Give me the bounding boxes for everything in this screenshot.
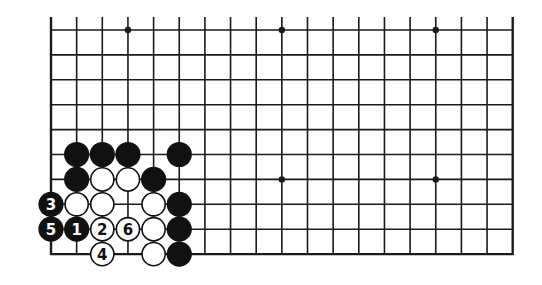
black-stone bbox=[90, 142, 115, 167]
move-number-label: 2 bbox=[97, 221, 107, 239]
black-stone-circle bbox=[141, 167, 166, 192]
white-stone-move-4: 4 bbox=[91, 243, 114, 266]
board-grid bbox=[51, 17, 513, 255]
white-stone bbox=[142, 218, 165, 241]
black-stone bbox=[115, 142, 140, 167]
black-stone-move-5: 5 bbox=[38, 217, 63, 242]
white-stone-move-6: 6 bbox=[116, 218, 139, 241]
white-stone-circle bbox=[91, 193, 114, 216]
white-stone bbox=[142, 193, 165, 216]
white-stone bbox=[65, 193, 88, 216]
black-stone bbox=[167, 242, 192, 267]
black-stone bbox=[167, 217, 192, 242]
black-stone-move-1: 1 bbox=[64, 217, 89, 242]
white-stone-circle bbox=[116, 168, 139, 191]
white-stone bbox=[91, 168, 114, 191]
white-stone bbox=[142, 243, 165, 266]
star-point-icon bbox=[433, 176, 439, 182]
star-point-icon bbox=[433, 27, 439, 33]
black-stone-circle bbox=[64, 142, 89, 167]
move-number-label: 3 bbox=[46, 196, 56, 214]
move-number-label: 1 bbox=[71, 221, 81, 239]
black-stone bbox=[64, 142, 89, 167]
white-stone-circle bbox=[142, 218, 165, 241]
move-number-label: 5 bbox=[46, 221, 56, 239]
white-stone-circle bbox=[142, 193, 165, 216]
go-board: 351264 bbox=[0, 0, 542, 285]
white-stone bbox=[116, 168, 139, 191]
black-stone-circle bbox=[115, 142, 140, 167]
black-stone-circle bbox=[90, 142, 115, 167]
white-stone-move-2: 2 bbox=[91, 218, 114, 241]
white-stone bbox=[91, 193, 114, 216]
black-stone-circle bbox=[167, 217, 192, 242]
white-stone-circle bbox=[142, 243, 165, 266]
black-stone-circle bbox=[167, 142, 192, 167]
black-stone bbox=[141, 167, 166, 192]
black-stone-circle bbox=[167, 242, 192, 267]
move-number-label: 4 bbox=[97, 246, 107, 264]
star-point-icon bbox=[125, 27, 131, 33]
black-stone-circle bbox=[64, 167, 89, 192]
move-number-label: 6 bbox=[123, 221, 133, 239]
black-stone-circle bbox=[167, 192, 192, 217]
black-stone bbox=[167, 192, 192, 217]
black-stone bbox=[64, 167, 89, 192]
white-stone-circle bbox=[91, 168, 114, 191]
black-stone bbox=[167, 142, 192, 167]
star-point-icon bbox=[279, 176, 285, 182]
star-point-icon bbox=[279, 27, 285, 33]
black-stone-move-3: 3 bbox=[38, 192, 63, 217]
white-stone-circle bbox=[65, 193, 88, 216]
